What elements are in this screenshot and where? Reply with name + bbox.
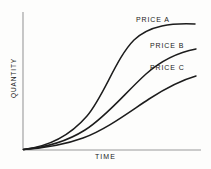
series-label-price-a: PRICE A [136,16,170,23]
y-axis-title: QUANTITY [10,58,17,98]
chart-figure: PRICE A PRICE B PRICE C TIME QUANTITY [0,0,211,169]
series-label-price-c: PRICE C [150,64,185,71]
curve-price-c [24,76,197,150]
series-label-price-b: PRICE B [150,42,184,49]
plot-area [0,0,211,169]
y-axis-title-container: QUANTITY [6,48,20,108]
x-axis-title: TIME [0,153,211,160]
